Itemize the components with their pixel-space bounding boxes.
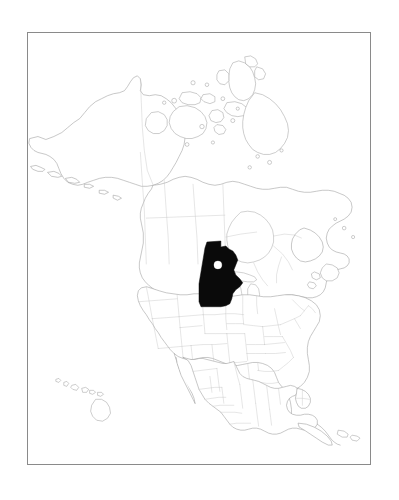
location-marker (214, 261, 222, 269)
region-hawaii (56, 378, 111, 421)
map-border (27, 32, 371, 465)
region-caribbean (298, 423, 360, 445)
locator-map-figure (0, 0, 399, 500)
north-america-map (28, 33, 370, 464)
